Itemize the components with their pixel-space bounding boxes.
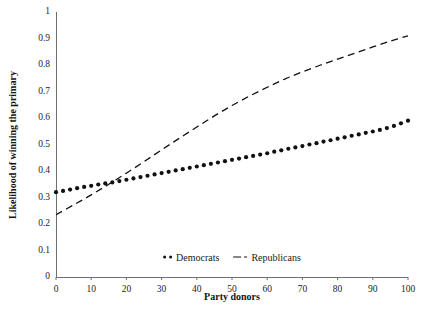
- y-axis-title: Likelihood of winning the primary: [7, 71, 18, 219]
- democrats-data-point: [258, 152, 262, 156]
- y-tick-label: 0.2: [0, 219, 50, 229]
- x-axis-title: Party donors: [204, 291, 260, 302]
- democrats-data-point: [286, 147, 290, 151]
- democrats-data-point: [321, 139, 325, 143]
- democrats-data-point: [131, 176, 135, 180]
- democrats-data-point: [110, 180, 114, 184]
- x-tick-label: 70: [298, 285, 308, 295]
- x-tick-label: 30: [157, 285, 167, 295]
- chart-legend: Democrats Republicans: [163, 252, 301, 263]
- x-tick-label: 100: [401, 285, 415, 295]
- x-tick-label: 10: [86, 285, 96, 295]
- democrats-data-point: [75, 186, 79, 190]
- legend-label-republicans: Republicans: [251, 252, 300, 263]
- y-tick-label: 0.9: [0, 34, 50, 44]
- x-tick-label: 90: [368, 285, 378, 295]
- democrats-data-point: [167, 170, 171, 174]
- democrats-data-point: [152, 172, 156, 176]
- democrats-data-point: [117, 179, 121, 183]
- legend-item-republicans: Republicans: [233, 252, 300, 263]
- democrats-data-point: [272, 150, 276, 154]
- democrats-data-point: [251, 154, 255, 158]
- axis-lines: [56, 12, 408, 277]
- x-tick-label: 0: [54, 285, 59, 295]
- democrats-data-point: [160, 171, 164, 175]
- democrats-data-point: [68, 187, 72, 191]
- x-tick-label: 80: [333, 285, 343, 295]
- y-tick-label: 0: [0, 272, 50, 282]
- democrats-data-point: [61, 189, 65, 193]
- democrats-data-point: [336, 137, 340, 141]
- democrats-data-point: [145, 174, 149, 178]
- democrats-data-point: [279, 148, 283, 152]
- democrats-data-point: [328, 138, 332, 142]
- x-tick-label: 60: [262, 285, 272, 295]
- series-democrats-markers: [54, 119, 410, 195]
- democrats-data-point: [223, 159, 227, 163]
- democrats-data-point: [265, 151, 269, 155]
- democrats-data-point: [300, 144, 304, 148]
- democrats-data-point: [82, 185, 86, 189]
- dash-dot-line-icon: [233, 256, 247, 257]
- democrats-data-point: [54, 190, 58, 194]
- legend-label-democrats: Democrats: [176, 252, 219, 263]
- democrats-data-point: [195, 164, 199, 168]
- democrats-data-point: [124, 178, 128, 182]
- democrats-data-point: [188, 166, 192, 170]
- democrats-data-point: [103, 181, 107, 185]
- democrats-data-point: [230, 158, 234, 162]
- democrats-data-point: [181, 167, 185, 171]
- democrats-data-point: [209, 162, 213, 166]
- democrats-data-point: [314, 141, 318, 145]
- y-tick-label: 0.8: [0, 60, 50, 70]
- y-tick-label: 0.1: [0, 246, 50, 256]
- series-republicans-line: [56, 36, 408, 215]
- democrats-data-point: [357, 132, 361, 136]
- democrats-data-point: [237, 156, 241, 160]
- democrats-data-point: [216, 160, 220, 164]
- democrats-data-point: [138, 175, 142, 179]
- democrats-data-point: [307, 142, 311, 146]
- republicans-curve: [56, 36, 408, 215]
- democrats-data-point: [350, 134, 354, 138]
- democrats-data-point: [378, 128, 382, 132]
- two-dots-icon: [163, 256, 172, 259]
- democrats-data-point: [89, 184, 93, 188]
- democrats-data-point: [343, 135, 347, 139]
- x-tick-label: 20: [122, 285, 132, 295]
- democrats-data-point: [293, 145, 297, 149]
- democrats-data-point: [406, 119, 410, 123]
- democrats-data-point: [385, 126, 389, 130]
- democrats-data-point: [392, 124, 396, 128]
- democrats-data-point: [371, 129, 375, 133]
- democrats-data-point: [174, 168, 178, 172]
- democrats-data-point: [96, 182, 100, 186]
- chart-figure: 00.10.20.30.40.50.60.70.80.91 0102030405…: [0, 0, 423, 314]
- democrats-data-point: [364, 131, 368, 135]
- legend-item-democrats: Democrats: [163, 252, 219, 263]
- y-tick-label: 1: [0, 7, 50, 17]
- democrats-data-point: [202, 163, 206, 167]
- democrats-data-point: [399, 121, 403, 125]
- plot-canvas: [0, 0, 423, 314]
- x-tick-label: 40: [192, 285, 202, 295]
- democrats-data-point: [244, 155, 248, 159]
